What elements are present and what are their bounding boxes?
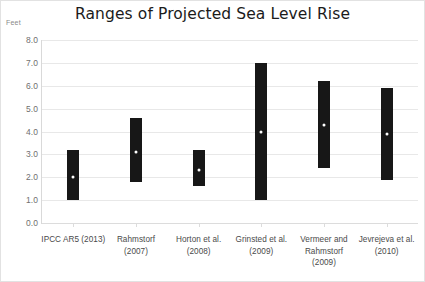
gridline-7 bbox=[42, 63, 418, 64]
x-axis-category-label: Jevrejeva et al.(2010) bbox=[350, 234, 424, 257]
category-label-line: (2009) bbox=[287, 257, 361, 269]
central-estimate-marker bbox=[135, 151, 138, 154]
central-estimate-marker bbox=[260, 130, 263, 133]
category-label-line: (2010) bbox=[350, 246, 424, 258]
gridline-5 bbox=[42, 109, 418, 110]
y-tick-label-2-0: 2.0 bbox=[8, 172, 38, 182]
y-tick-label-0-0: 0.0 bbox=[8, 218, 38, 228]
gridline-4 bbox=[42, 132, 418, 133]
central-estimate-marker bbox=[72, 176, 75, 179]
y-tick-label-7-0: 7.0 bbox=[8, 58, 38, 68]
gridline-3 bbox=[42, 154, 418, 155]
y-tick-label-1-0: 1.0 bbox=[8, 195, 38, 205]
plot-area bbox=[42, 40, 418, 223]
y-tick-label-8-0: 8.0 bbox=[8, 35, 38, 45]
y-tick-label-6-0: 6.0 bbox=[8, 81, 38, 91]
central-estimate-marker bbox=[197, 169, 200, 172]
gridline-1 bbox=[42, 200, 418, 201]
gridline-2 bbox=[42, 177, 418, 178]
category-label-line: Jevrejeva et al. bbox=[350, 234, 424, 246]
central-estimate-marker bbox=[385, 132, 388, 135]
gridline-8 bbox=[42, 40, 418, 41]
y-axis-unit-label: Feet bbox=[6, 19, 21, 26]
sea-level-rise-chart-figure: Ranges of Projected Sea Level Rise Feet … bbox=[0, 0, 425, 282]
gridline-0 bbox=[42, 223, 418, 224]
central-estimate-marker bbox=[323, 123, 326, 126]
y-tick-label-4-0: 4.0 bbox=[8, 127, 38, 137]
chart-title: Ranges of Projected Sea Level Rise bbox=[1, 5, 424, 23]
y-tick-label-5-0: 5.0 bbox=[8, 104, 38, 114]
gridline-6 bbox=[42, 86, 418, 87]
y-tick-label-3-0: 3.0 bbox=[8, 149, 38, 159]
